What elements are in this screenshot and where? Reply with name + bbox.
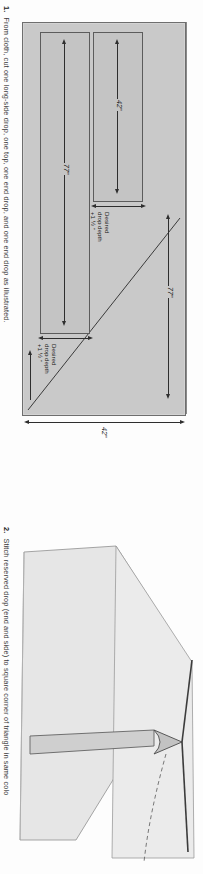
dim-label-panel-42: 42" [101, 426, 108, 438]
dim-line-grain [30, 354, 31, 400]
dim-label-42: 42" [116, 99, 123, 111]
figure-1-caption: 1.From cloth, cut one long-side drop, on… [2, 6, 11, 436]
dim-arrow-long-width-left [38, 336, 43, 340]
piece-long-side-drop: 77" [40, 32, 90, 334]
dim-label-short-dropdepth: drop depth [97, 211, 104, 243]
corner-sketch-svg [16, 540, 196, 866]
figure-1-number: 1. [2, 6, 11, 17]
dim-label-long-plushalf: +1 ½ " [37, 343, 44, 363]
dim-line-77 [64, 43, 65, 323]
dim-arrow-77-top [62, 39, 66, 44]
dim-label-short-plushalf: +1 ½ " [90, 211, 97, 231]
piece-end-drop: 42" [93, 32, 143, 202]
dim-line-long-width [42, 338, 88, 339]
dim-arrow-77-bottom [62, 321, 66, 326]
dim-arrow-42-top [115, 39, 119, 44]
fabric-edge-line [186, 22, 187, 414]
dim-arrow-panel-42-left [24, 420, 29, 424]
dim-line-panel-42 [28, 422, 180, 423]
dim-arrow-short-width-left [91, 204, 96, 208]
dim-arrow-grain-top [28, 350, 32, 355]
dim-label-long-desired: Desired [51, 343, 58, 366]
dim-arrow-panel-77-bottom [166, 394, 170, 399]
dim-line-short-width [95, 206, 141, 207]
dim-label-panel-77: 77" [167, 286, 174, 298]
cloth-face-drop [112, 546, 194, 858]
figure-2-number: 2. [2, 527, 11, 538]
dim-arrow-short-width-right [141, 204, 146, 208]
figure-2-caption: 2.Stitch reserved drop (end and side) to… [2, 527, 11, 874]
dim-label-short-desired: Desired [104, 211, 111, 234]
dim-label-long-dropdepth: drop depth [44, 343, 51, 375]
figure-1-cutting-layout: 77" 42" Desired drop depth +1 ½ " Desire… [18, 18, 188, 418]
dim-arrow-panel-77-top [166, 214, 170, 219]
figure-2-caption-text: Stitch reserved drop (end and side) to s… [2, 538, 11, 795]
figure-plate-page: 77" 42" Desired drop depth +1 ½ " Desire… [0, 0, 203, 874]
dim-arrow-panel-42-right [180, 420, 185, 424]
dim-line-panel-77 [168, 218, 169, 396]
figure-2-corner-sketch [16, 540, 196, 866]
figure-1-caption-text: From cloth, cut one long-side drop, one … [2, 17, 11, 322]
dim-label-77: 77" [63, 163, 70, 175]
dim-arrow-42-bottom [115, 189, 119, 194]
dim-arrow-long-width-right [88, 336, 93, 340]
dim-line-42 [117, 43, 118, 191]
